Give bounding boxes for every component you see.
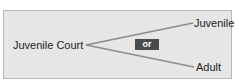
target-node-adult: Adult xyxy=(196,61,221,73)
source-node-label: Juvenile Court xyxy=(13,39,83,51)
or-badge: or xyxy=(135,39,159,50)
target-node-juvenile: Juvenile xyxy=(194,17,234,29)
